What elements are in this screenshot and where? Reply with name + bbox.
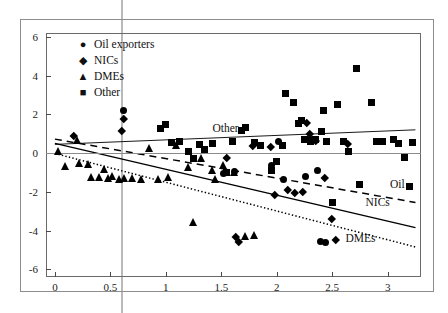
- trendline-label-nics: NICs: [366, 196, 390, 208]
- data-point-square: [329, 199, 336, 206]
- diamond-marker-icon: ◆: [76, 55, 90, 66]
- data-point-triangle: [145, 144, 153, 152]
- data-point-triangle: [197, 154, 205, 162]
- data-point-square: [340, 138, 347, 145]
- data-point-square: [312, 136, 319, 143]
- y-axis-tick-label: -6: [16, 263, 38, 275]
- data-point-square: [242, 124, 249, 131]
- data-point-square: [401, 154, 408, 161]
- data-point-triangle: [154, 175, 162, 183]
- trendline-label-other: Other: [212, 122, 238, 134]
- data-point-square: [345, 148, 352, 155]
- data-point-triangle: [104, 174, 112, 182]
- data-point-square: [282, 90, 289, 97]
- legend-item-dmes: ▲ DMEs: [76, 68, 154, 84]
- data-point-triangle: [75, 159, 83, 167]
- data-point-square: [223, 169, 230, 176]
- legend-item-oil-exporters: ● Oil exporters: [76, 36, 154, 52]
- data-point-triangle: [184, 163, 192, 171]
- y-axis-tick-mark: [46, 114, 51, 115]
- data-point-square: [273, 158, 280, 165]
- data-point-square: [162, 121, 169, 128]
- data-point-square: [406, 183, 413, 190]
- x-axis-tick-mark: [277, 272, 278, 277]
- data-point-square: [176, 138, 183, 145]
- data-point-square: [379, 138, 386, 145]
- data-point-triangle: [208, 166, 216, 174]
- legend-label-other: Other: [94, 86, 120, 98]
- data-point-square: [257, 142, 264, 149]
- x-axis-tick-label: 0.5: [95, 281, 125, 293]
- data-point-triangle: [241, 232, 249, 240]
- data-point-triangle: [230, 168, 238, 176]
- data-point-square: [290, 99, 297, 106]
- legend-item-nics: ◆ NICs: [76, 52, 154, 68]
- chart-legend: ● Oil exporters ◆ NICs ▲ DMEs ■ Other: [76, 36, 154, 100]
- data-point-triangle: [211, 175, 219, 183]
- data-point-triangle: [219, 161, 227, 169]
- data-point-triangle: [54, 147, 62, 155]
- y-axis-tick-mark: [46, 76, 51, 77]
- y-axis-tick-mark: [46, 231, 51, 232]
- y-axis-tick-mark: [46, 37, 51, 38]
- data-point-square: [323, 138, 330, 145]
- data-point-triangle: [250, 231, 258, 239]
- x-axis-tick-mark: [166, 272, 167, 277]
- x-axis-tick-label: 1.5: [206, 281, 236, 293]
- data-point-square: [318, 128, 325, 135]
- x-axis-tick-label: 0: [40, 281, 70, 293]
- chart-screenshot: 6420-2-4-600.511.522.53 OtherOilNICsDMEs…: [0, 0, 448, 313]
- data-point-circle: [280, 176, 287, 183]
- x-axis-tick-mark: [388, 272, 389, 277]
- trendline-label-dmes: DMEs: [346, 232, 376, 244]
- data-point-square: [320, 107, 327, 114]
- y-axis-tick-label: -2: [16, 186, 38, 198]
- y-axis-tick-label: 2: [16, 108, 38, 120]
- x-axis-tick-label: 2: [262, 281, 292, 293]
- data-point-circle: [302, 173, 309, 180]
- x-axis-tick-mark: [221, 272, 222, 277]
- data-point-triangle: [164, 173, 172, 181]
- data-point-triangle: [137, 175, 145, 183]
- data-point-square: [168, 139, 175, 146]
- data-point-square: [190, 155, 197, 162]
- data-point-square: [279, 142, 286, 149]
- legend-label-oil-exporters: Oil exporters: [94, 38, 154, 50]
- circle-marker-icon: ●: [76, 39, 90, 50]
- x-axis-tick-label: 1: [151, 281, 181, 293]
- data-point-square: [298, 117, 305, 124]
- data-point-square: [395, 140, 402, 147]
- data-point-circle: [322, 239, 329, 246]
- data-point-triangle: [84, 160, 92, 168]
- y-axis-tick-label: 4: [16, 70, 38, 82]
- y-axis-tick-label: 6: [16, 31, 38, 43]
- x-axis-tick-mark: [110, 272, 111, 277]
- y-axis-tick-mark: [46, 192, 51, 193]
- data-point-square: [368, 99, 375, 106]
- data-point-triangle: [189, 218, 197, 226]
- data-point-square: [353, 65, 360, 72]
- data-point-square: [409, 139, 416, 146]
- legend-label-dmes: DMEs: [94, 70, 124, 82]
- legend-item-other: ■ Other: [76, 84, 154, 100]
- square-marker-icon: ■: [76, 87, 90, 98]
- legend-label-nics: NICs: [94, 54, 118, 66]
- trendline-label-oil: Oil: [390, 178, 405, 190]
- data-point-triangle: [128, 174, 136, 182]
- x-axis-tick-label: 2.5: [317, 281, 347, 293]
- zero-reference-line: [46, 153, 421, 154]
- y-axis-tick-label: 0: [16, 147, 38, 159]
- data-point-square: [209, 140, 216, 147]
- triangle-marker-icon: ▲: [76, 71, 90, 82]
- data-point-square: [201, 146, 208, 153]
- x-axis-tick-mark: [55, 272, 56, 277]
- data-point-square: [356, 181, 363, 188]
- y-axis-tick-label: -4: [16, 225, 38, 237]
- x-axis-tick-mark: [332, 272, 333, 277]
- data-point-triangle: [73, 136, 81, 144]
- data-point-square: [268, 167, 275, 174]
- data-point-triangle: [95, 173, 103, 181]
- data-point-square: [185, 148, 192, 155]
- y-axis-tick-mark: [46, 269, 51, 270]
- data-point-square: [229, 138, 236, 145]
